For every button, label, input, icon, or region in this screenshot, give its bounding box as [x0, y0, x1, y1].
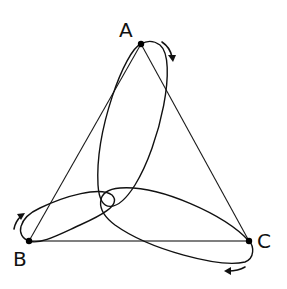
edge-a-b — [29, 44, 141, 241]
triangle-loop-diagram: A B C — [0, 0, 287, 289]
label-c: C — [257, 229, 271, 253]
label-a: A — [119, 18, 133, 42]
vertex-c — [246, 238, 252, 244]
arrow-icon-c — [224, 267, 245, 275]
label-b: B — [13, 247, 27, 271]
edge-a-c — [141, 44, 249, 241]
vertex-a — [138, 41, 144, 47]
vertex-b — [26, 238, 32, 244]
loop-a — [98, 42, 167, 207]
